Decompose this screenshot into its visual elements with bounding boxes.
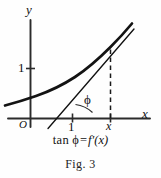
- x-unit-tick-label: 1: [68, 120, 75, 133]
- x-point-tick-label: x: [106, 120, 111, 132]
- formula-derivative-expression: f′(x): [88, 133, 108, 147]
- formula-function-name: tan: [53, 133, 69, 147]
- angle-phi-label: ϕ: [84, 93, 91, 106]
- formula-text: tan ϕ=f′(x): [0, 133, 161, 148]
- figure-container: y x 1 1 x O ϕ tan ϕ=f′(x) Fig. 3: [0, 0, 161, 178]
- figure-caption: Fig. 3: [0, 157, 161, 172]
- formula-equals-sign: =: [79, 133, 88, 147]
- figure-graphic: [0, 0, 161, 178]
- tangent-line: [48, 29, 134, 129]
- origin-label: O: [19, 119, 27, 130]
- x-axis-label: x: [142, 107, 148, 120]
- formula-angle-symbol: ϕ: [72, 133, 79, 147]
- y-unit-tick-label: 1: [18, 61, 25, 74]
- y-axis-label: y: [26, 3, 32, 16]
